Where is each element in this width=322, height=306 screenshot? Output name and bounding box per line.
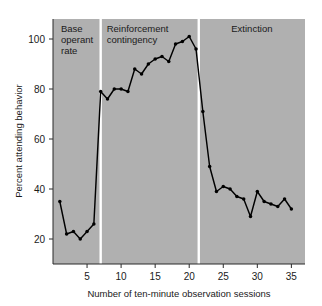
phase-label-0-line-2: rate [61, 45, 77, 56]
phase-label-1-line-0: Reinforcement [107, 23, 169, 34]
y-tick-label-100: 100 [28, 34, 45, 45]
data-point [58, 200, 62, 204]
data-point [78, 237, 82, 241]
data-point [256, 190, 260, 194]
phase-label-2-line-0: Extinction [231, 23, 272, 34]
data-point [106, 97, 110, 101]
data-point [167, 60, 171, 64]
data-point [65, 232, 69, 236]
data-point [262, 200, 266, 204]
data-point [269, 202, 273, 206]
data-point [283, 197, 287, 201]
x-tick-label-35: 35 [286, 271, 298, 282]
data-point [208, 165, 212, 169]
y-axis-label: Percent attending behavior [13, 84, 24, 198]
phase-label-0-line-0: Base [61, 23, 83, 34]
data-point [126, 90, 130, 94]
attending-behavior-line-chart: BaseoperantrateReinforcementcontingencyE… [0, 0, 322, 306]
x-tick-label-20: 20 [184, 271, 196, 282]
x-tick-label-10: 10 [116, 271, 128, 282]
x-axis-label: Number of ten-minute observation session… [87, 288, 270, 299]
data-point [72, 230, 76, 234]
chart-figure: BaseoperantrateReinforcementcontingencyE… [0, 0, 322, 306]
data-point [147, 62, 151, 66]
data-point [222, 185, 226, 189]
data-point [119, 87, 123, 91]
phase-label-0-line-1: operant [61, 34, 94, 45]
data-point [85, 230, 89, 234]
phase-label-1-line-1: contingency [107, 34, 158, 45]
y-tick-label-80: 80 [34, 84, 46, 95]
x-tick-label-25: 25 [218, 271, 230, 282]
data-point [194, 47, 198, 51]
data-point [215, 190, 219, 194]
y-tick-label-20: 20 [34, 234, 46, 245]
data-point [181, 40, 185, 44]
data-point [140, 72, 144, 76]
data-point [99, 90, 103, 94]
data-point [160, 55, 164, 59]
data-point [235, 195, 239, 199]
data-point [153, 57, 157, 61]
data-point [113, 87, 117, 91]
y-tick-label-60: 60 [34, 134, 46, 145]
data-point [242, 197, 246, 201]
data-point [133, 67, 137, 71]
x-tick-label-15: 15 [150, 271, 162, 282]
data-point [290, 207, 294, 211]
data-point [187, 35, 191, 39]
data-point [174, 42, 178, 46]
data-point [249, 215, 253, 219]
data-point [276, 205, 280, 209]
x-tick-label-30: 30 [252, 271, 264, 282]
y-tick-label-40: 40 [34, 184, 46, 195]
x-tick-label-5: 5 [84, 271, 90, 282]
data-point [201, 110, 205, 114]
data-point [228, 187, 232, 191]
data-point [92, 222, 96, 226]
